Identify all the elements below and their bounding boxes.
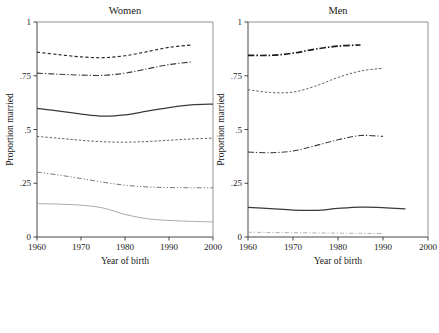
y-axis-title: Proportion married xyxy=(216,93,226,166)
series-line-age-16 xyxy=(37,204,213,222)
x-axis-title: Year of birth xyxy=(314,256,362,266)
x-tick-label: 1960 xyxy=(239,242,258,252)
series-line-age-34 xyxy=(248,45,361,55)
series-line-age-28 xyxy=(37,136,213,142)
y-tick-label: .25 xyxy=(231,178,243,188)
figure-root: Women0.25.5.75119601970198019902000Propo… xyxy=(0,0,439,333)
chart-panel-men: Men0.25.5.75119601970198019902000Proport… xyxy=(216,5,438,266)
chart-panels: Women0.25.5.75119601970198019902000Propo… xyxy=(0,0,439,268)
x-tick-label: 1970 xyxy=(72,242,91,252)
series-line-age-26 xyxy=(248,135,383,152)
x-tick-label: 1980 xyxy=(116,242,135,252)
x-tick-label: 1970 xyxy=(284,242,303,252)
series-line-age-18 xyxy=(248,232,383,233)
x-tick-label: 1960 xyxy=(28,242,47,252)
series-line-age-30 xyxy=(248,68,383,93)
x-tick-label: 2000 xyxy=(419,242,438,252)
y-axis-title: Proportion married xyxy=(5,93,15,166)
y-tick-label: .5 xyxy=(24,125,31,135)
chart-canvas: Women0.25.5.75119601970198019902000Propo… xyxy=(0,0,439,268)
series-line-age-20 xyxy=(37,172,213,188)
panel-title: Men xyxy=(328,5,348,16)
y-tick-label: 1 xyxy=(238,17,243,27)
series-line-age-25 xyxy=(37,62,191,75)
x-tick-label: 1990 xyxy=(160,242,179,252)
x-tick-label: 2000 xyxy=(204,242,223,252)
x-axis-title: Year of birth xyxy=(101,256,149,266)
y-tick-label: 0 xyxy=(27,232,32,242)
y-tick-label: .5 xyxy=(235,125,242,135)
series-line-age-18 xyxy=(37,45,191,58)
y-tick-label: .75 xyxy=(20,71,32,81)
chart-panel-women: Women0.25.5.75119601970198019902000Propo… xyxy=(5,5,223,266)
y-tick-label: 0 xyxy=(238,232,243,242)
plot-frame xyxy=(37,22,213,237)
y-tick-label: 1 xyxy=(27,17,32,27)
panel-title: Women xyxy=(109,5,142,16)
y-tick-label: .25 xyxy=(20,178,32,188)
x-tick-label: 1980 xyxy=(329,242,348,252)
legend-area: Age 161820222528 Age 1822263034 xyxy=(0,268,439,333)
y-tick-label: .75 xyxy=(231,71,243,81)
x-tick-label: 1990 xyxy=(374,242,393,252)
series-line-age-22 xyxy=(248,207,406,210)
series-line-age-22 xyxy=(37,104,213,116)
